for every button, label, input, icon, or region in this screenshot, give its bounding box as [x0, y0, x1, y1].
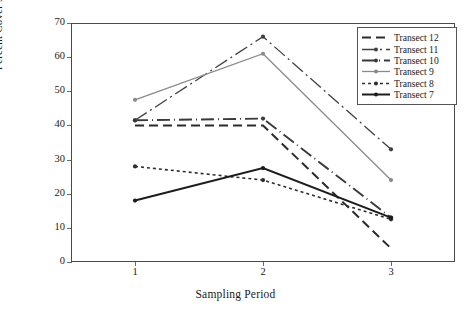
data-point — [389, 216, 393, 220]
legend-item[interactable]: Transect 8 — [361, 78, 453, 89]
data-point — [261, 52, 265, 56]
legend-item[interactable]: Transect 10 — [361, 55, 453, 66]
legend-item[interactable]: Transect 7 — [361, 89, 453, 100]
x-axis-title: Sampling Period — [0, 288, 471, 300]
data-point — [261, 117, 265, 121]
legend-item-label: Transect 7 — [391, 89, 434, 100]
legend-item-label: Transect 8 — [391, 78, 434, 89]
data-point — [261, 35, 265, 39]
legend-line-swatch-icon — [361, 66, 391, 77]
series-line-transect-12 — [135, 125, 391, 248]
legend-line-swatch-icon — [361, 89, 391, 100]
chart-container: Percent Cover Seagrass 010203040506070 1… — [0, 0, 471, 311]
legend-line-swatch-icon — [361, 78, 391, 89]
legend-item-label: Transect 11 — [391, 44, 438, 55]
data-point — [133, 198, 137, 202]
x-axis-tick-label: 1 — [120, 266, 150, 277]
data-point — [389, 147, 393, 151]
legend-item[interactable]: Transect 9 — [361, 66, 453, 77]
legend-item-label: Transect 12 — [391, 32, 439, 43]
data-point — [261, 178, 265, 182]
legend-line-swatch-icon — [361, 44, 391, 55]
data-point — [133, 164, 137, 168]
data-point — [261, 166, 265, 170]
x-axis-tick-label: 2 — [248, 266, 278, 277]
x-axis-tick-label: 3 — [376, 266, 406, 277]
legend-item[interactable]: Transect 12 — [361, 32, 453, 43]
series-line-transect-7 — [135, 168, 391, 218]
legend-item-label: Transect 9 — [391, 66, 434, 77]
data-point — [389, 178, 393, 182]
data-point — [133, 118, 137, 122]
legend: Transect 12Transect 11Transect 10Transec… — [357, 27, 457, 105]
legend-item-label: Transect 10 — [391, 55, 439, 66]
data-point — [133, 98, 137, 102]
legend-line-swatch-icon — [361, 55, 391, 66]
legend-line-swatch-icon — [361, 32, 391, 43]
legend-item[interactable]: Transect 11 — [361, 43, 453, 54]
